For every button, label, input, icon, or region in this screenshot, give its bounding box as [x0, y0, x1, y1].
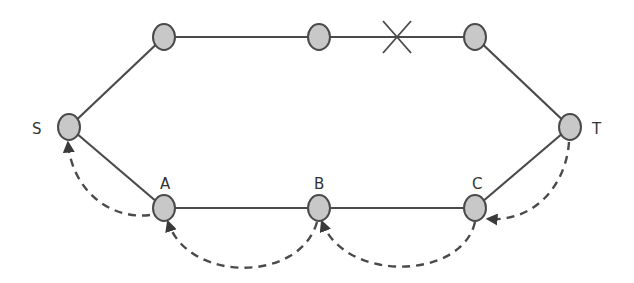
node-a — [153, 195, 175, 221]
edge-s-u1 — [69, 37, 164, 127]
label-b: B — [314, 175, 324, 193]
backtrack-arrow-b-to-a — [168, 222, 317, 268]
label-a: A — [160, 175, 171, 193]
node-upper-2 — [308, 24, 330, 50]
node-upper-3 — [464, 24, 486, 50]
backtrack-arrow-a-to-s — [68, 143, 150, 216]
node-labels: S T A B C — [32, 120, 602, 193]
label-c: C — [472, 175, 482, 193]
edge-c-t — [475, 127, 570, 208]
edge-u3-t — [475, 37, 570, 127]
edge-s-a — [69, 127, 164, 208]
node-b — [308, 195, 330, 221]
label-t: T — [591, 120, 602, 138]
node-upper-1 — [153, 24, 175, 50]
backtrack-arrow-t-to-c — [488, 142, 569, 219]
label-s: S — [32, 120, 42, 138]
node-t — [559, 114, 581, 140]
node-c — [464, 195, 486, 221]
node-s — [58, 114, 80, 140]
backtrack-arrow-c-to-b — [322, 222, 475, 267]
network-diagram: S T A B C — [0, 0, 634, 283]
